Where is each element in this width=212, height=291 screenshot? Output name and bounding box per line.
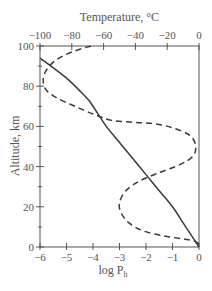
y-tick-label: 0 bbox=[29, 241, 35, 253]
bottom-x-tick-label: −5 bbox=[61, 251, 73, 263]
top-x-tick-label: 0 bbox=[196, 29, 202, 41]
top-x-tick-label: −80 bbox=[63, 29, 81, 41]
bottom-x-tick-label: −3 bbox=[114, 251, 126, 263]
y-tick-label: 100 bbox=[18, 40, 35, 52]
bottom-x-tick-label: −4 bbox=[87, 251, 99, 263]
y-axis-title: Altitude, km bbox=[8, 115, 22, 176]
bottom-x-tick-label: 0 bbox=[196, 251, 202, 263]
bottom-x-axis-title-main: log P bbox=[98, 263, 123, 277]
top-x-tick-label: −20 bbox=[159, 29, 177, 41]
data-series bbox=[40, 46, 199, 247]
y-tick-label: 40 bbox=[23, 161, 35, 173]
bottom-x-tick-label: −1 bbox=[167, 251, 179, 263]
pressure-curve bbox=[40, 58, 199, 247]
bottom-x-axis-title: log Ph bbox=[98, 263, 127, 279]
y-tick-label: 20 bbox=[23, 201, 35, 213]
top-x-axis-title: Temperature, °C bbox=[80, 10, 159, 24]
top-x-tick-label: −40 bbox=[127, 29, 145, 41]
y-tick-label: 60 bbox=[23, 120, 35, 132]
altitude-profile-chart: −100−80−60−40−200 −6−5−4−3−2−10 02040608… bbox=[0, 0, 212, 291]
bottom-x-tick-label: −6 bbox=[34, 251, 46, 263]
top-x-tick-label: −60 bbox=[95, 29, 113, 41]
bottom-x-axis-title-subscript: h bbox=[124, 270, 128, 279]
top-x-axis-ticks: −100−80−60−40−200 bbox=[29, 29, 203, 50]
bottom-x-axis-ticks: −6−5−4−3−2−10 bbox=[34, 243, 202, 263]
y-tick-label: 80 bbox=[23, 80, 35, 92]
bottom-x-tick-label: −2 bbox=[140, 251, 152, 263]
